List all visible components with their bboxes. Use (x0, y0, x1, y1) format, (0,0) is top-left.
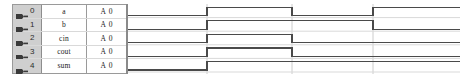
signal-name-cell[interactable]: b (42, 19, 87, 32)
signal-name-cell[interactable]: sum (42, 59, 87, 73)
table-row[interactable]: 0 a A 0 (13, 5, 126, 19)
row-index-label: 4 (30, 62, 34, 70)
signal-radix-label: A (100, 62, 105, 70)
signal-name-label: b (62, 21, 66, 29)
signal-value-cell[interactable]: A 0 (87, 59, 126, 73)
table-row[interactable]: 2 cin A 0 (13, 32, 126, 46)
signal-value-label: 0 (109, 62, 113, 70)
waveform-canvas[interactable] (128, 4, 460, 74)
signal-value-label: 0 (109, 35, 113, 43)
signal-radix-label: A (100, 21, 105, 29)
waveform-trace-cout[interactable] (128, 48, 460, 56)
plug-icon (15, 20, 29, 29)
row-index-label: 0 (30, 7, 34, 15)
signal-radix-label: A (100, 8, 105, 16)
signal-value-label: 0 (109, 21, 113, 29)
plug-icon (15, 48, 29, 57)
signal-name-label: cout (57, 48, 71, 56)
row-index-cell[interactable]: 3 (13, 46, 42, 59)
row-index-label: 3 (30, 48, 34, 56)
signal-radix-label: A (100, 48, 105, 56)
signal-value-cell[interactable]: A 0 (87, 5, 126, 18)
waveform-cursor-group (207, 4, 373, 74)
plug-icon (15, 7, 29, 16)
signal-name-label: a (62, 8, 66, 16)
row-index-cell[interactable]: 1 (13, 19, 42, 32)
signal-value-cell[interactable]: A 0 (87, 46, 126, 59)
waveform-trace-b[interactable] (128, 21, 460, 29)
plug-icon (15, 62, 29, 71)
waveform-viewer: 0 a A 0 1 b (0, 0, 465, 78)
row-index-label: 2 (30, 34, 34, 42)
row-index-cell[interactable]: 2 (13, 32, 42, 45)
table-row[interactable]: 3 cout A 0 (13, 46, 126, 60)
plug-icon (15, 34, 29, 43)
row-index-cell[interactable]: 4 (13, 59, 42, 73)
waveform-trace-sum[interactable] (128, 62, 460, 70)
signal-value-cell[interactable]: A 0 (87, 32, 126, 45)
signal-name-cell[interactable]: cin (42, 32, 87, 45)
waveform-trace-a[interactable] (128, 7, 460, 15)
signal-name-cell[interactable]: a (42, 5, 87, 18)
signal-name-cell[interactable]: cout (42, 46, 87, 59)
signal-name-label: sum (57, 62, 70, 70)
row-index-cell[interactable]: 0 (13, 5, 42, 18)
signal-name-label: cin (59, 35, 69, 43)
signal-radix-label: A (100, 35, 105, 43)
signal-value-label: 0 (109, 48, 113, 56)
signal-table[interactable]: 0 a A 0 1 b (12, 4, 126, 74)
waveform-trace-cin[interactable] (128, 34, 460, 42)
table-row[interactable]: 4 sum A 0 (13, 59, 126, 73)
waveform-trace-group (128, 7, 460, 72)
signal-value-label: 0 (109, 8, 113, 16)
signal-value-cell[interactable]: A 0 (87, 19, 126, 32)
waveform-panel[interactable] (126, 4, 460, 74)
row-index-label: 1 (30, 21, 34, 29)
table-row[interactable]: 1 b A 0 (13, 19, 126, 33)
